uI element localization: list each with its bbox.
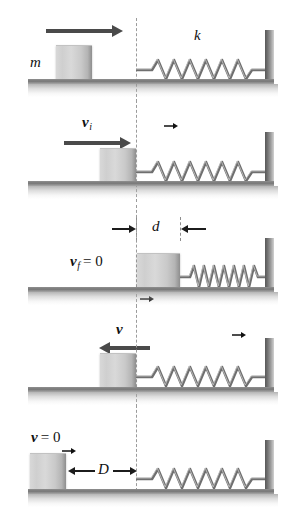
- ground-shadow: [28, 186, 278, 199]
- vector-arrow-overbar-icon: [232, 331, 247, 338]
- ground-shadow: [28, 292, 278, 305]
- velocity-vector-symbol: v: [82, 115, 89, 130]
- velocity-arrow-shaft: [64, 141, 122, 145]
- spring-relaxed: [136, 54, 268, 80]
- dimension-shaft-left: [112, 228, 130, 230]
- spring-relaxed: [136, 361, 268, 387]
- rebound-distance-label: D: [98, 462, 109, 477]
- velocity-vector-symbol: v: [70, 254, 77, 269]
- block: [56, 45, 92, 80]
- velocity-arrow-shaft: [110, 346, 150, 350]
- spring-constant-label: k: [194, 28, 201, 43]
- panel-contact: vi: [0, 100, 296, 200]
- velocity-label-v-zero: v= 0: [31, 429, 60, 445]
- wall: [265, 238, 274, 287]
- velocity-vector-symbol: v: [116, 322, 123, 337]
- wall: [265, 132, 274, 181]
- mass-label: m: [30, 55, 41, 70]
- dimension-head-left-icon: [181, 225, 188, 233]
- block: [137, 253, 180, 288]
- velocity-label-vf-zero: vf= 0: [70, 253, 103, 271]
- panel-final-rest: v= 0 D: [0, 405, 296, 522]
- ground-shadow: [28, 84, 278, 97]
- velocity-value: = 0: [41, 429, 61, 445]
- velocity-arrow-shaft: [46, 29, 114, 33]
- spring-relaxed: [136, 156, 268, 182]
- compression-distance-label: d: [152, 219, 160, 234]
- velocity-subscript: i: [89, 121, 92, 132]
- block: [30, 453, 66, 490]
- dimension-shaft-left: [74, 470, 95, 472]
- physics-figure: m k vi: [0, 0, 296, 522]
- spring-compressed: [180, 261, 268, 287]
- block: [100, 148, 136, 182]
- panel-approach: m k: [0, 0, 296, 100]
- dimension-head-right-icon: [129, 225, 136, 233]
- ground-shadow: [28, 494, 278, 507]
- velocity-value: = 0: [83, 253, 103, 269]
- velocity-label-vi: vi: [82, 114, 92, 132]
- panel-max-compression: d vf= 0: [0, 205, 296, 305]
- panel-rebound: v: [0, 305, 296, 405]
- block: [100, 353, 136, 388]
- velocity-label-v: v: [116, 321, 123, 337]
- wall: [265, 338, 274, 387]
- ground-shadow: [28, 392, 278, 405]
- wall: [265, 30, 274, 79]
- velocity-subscript: f: [77, 260, 80, 271]
- dimension-shaft-right: [188, 228, 206, 230]
- velocity-vector-symbol: v: [31, 430, 38, 445]
- wall: [265, 440, 274, 489]
- vector-arrow-overbar-icon: [164, 122, 179, 129]
- velocity-arrow-head-right-icon: [112, 25, 123, 37]
- spring-relaxed: [136, 463, 268, 489]
